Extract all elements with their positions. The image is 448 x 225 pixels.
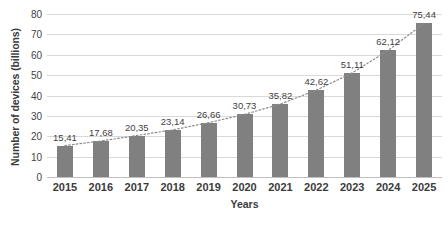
x-axis-tick-label: 2015 — [53, 181, 77, 193]
bar-value-label: 26,66 — [197, 109, 221, 120]
x-axis-tick-label: 2018 — [160, 181, 184, 193]
y-axis-tick-label: 0 — [36, 172, 42, 183]
x-axis-tick-label: 2017 — [125, 181, 149, 193]
bar-chart: Number of devices (billions) 01020304050… — [0, 0, 448, 225]
y-axis-tick-label: 80 — [31, 9, 42, 20]
bar-value-label: 23,14 — [161, 116, 185, 127]
x-axis-tick-label: 2023 — [340, 181, 364, 193]
x-axis-tick-label: 2019 — [196, 181, 220, 193]
bar-value-label: 17,68 — [89, 127, 113, 138]
gridline — [47, 177, 442, 178]
x-axis-tick-label: 2016 — [89, 181, 113, 193]
x-axis-tick-label: 2024 — [376, 181, 400, 193]
bar-value-label: 42,62 — [304, 76, 328, 87]
y-axis-tick-label: 10 — [31, 151, 42, 162]
x-axis-title: Years — [47, 198, 442, 210]
bar-value-label: 35,82 — [269, 90, 293, 101]
bar-value-label: 15,41 — [53, 132, 77, 143]
y-axis-tick-label: 70 — [31, 29, 42, 40]
bar-value-label: 75,44 — [412, 9, 436, 20]
bar-value-label: 30,73 — [233, 100, 257, 111]
x-axis-tick-label: 2021 — [268, 181, 292, 193]
y-axis-tick-label: 30 — [31, 110, 42, 121]
bar-value-label: 51,11 — [341, 59, 364, 70]
x-axis-tick-label: 2020 — [232, 181, 256, 193]
plot-area: 01020304050607080 15,4117,6820,3523,1426… — [47, 14, 442, 177]
x-axis-tick-label: 2022 — [304, 181, 328, 193]
y-axis-tick-label: 60 — [31, 49, 42, 60]
y-axis-title: Number of devices (billions) — [4, 4, 26, 190]
bar-value-label: 62,12 — [376, 36, 400, 47]
x-axis-tick-label: 2025 — [412, 181, 436, 193]
y-axis-tick-label: 40 — [31, 90, 42, 101]
y-axis-tick-label: 50 — [31, 70, 42, 81]
bar-value-label: 20,35 — [125, 122, 149, 133]
y-axis-tick-label: 20 — [31, 131, 42, 142]
value-labels: 15,4117,6820,3523,1426,6630,7335,8242,62… — [47, 14, 442, 177]
